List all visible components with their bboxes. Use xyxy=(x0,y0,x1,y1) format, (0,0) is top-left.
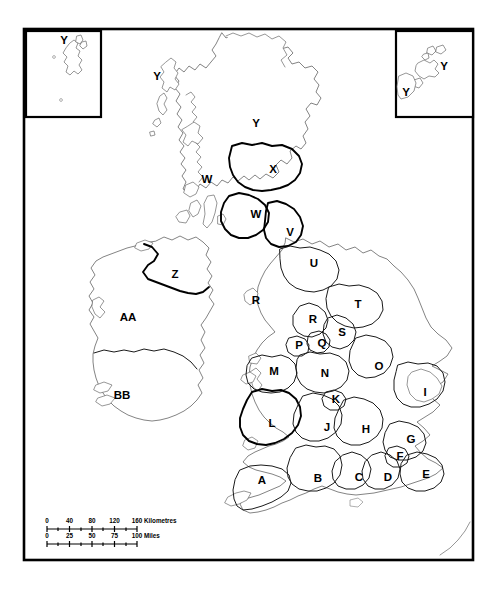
scotland-mainland-coast xyxy=(174,33,321,192)
region-label-k: K xyxy=(332,393,341,405)
kintyre-peninsula xyxy=(203,195,217,228)
outer-hebrides-barra xyxy=(153,118,161,127)
scale-label-km-40: 40 xyxy=(66,517,74,524)
region-label-w-highland: W xyxy=(202,173,213,185)
shetland-foula xyxy=(53,56,56,59)
scale-label-mi-75: 75 xyxy=(111,532,119,539)
region-label-m: M xyxy=(269,365,279,377)
scale-label-km-120: 120 xyxy=(109,517,120,524)
hebrides-small-isle-1 xyxy=(150,131,155,136)
region-label-e: E xyxy=(422,468,430,480)
region-label-o: O xyxy=(375,360,384,372)
region-label-n: N xyxy=(321,367,329,379)
region-label-i: I xyxy=(423,386,426,398)
region-label-c: C xyxy=(355,471,363,483)
region-label-bb: BB xyxy=(114,389,131,401)
scale-label-mi-25: 25 xyxy=(66,532,74,539)
region-label-s: S xyxy=(338,326,346,338)
scale-label-mi-100: 100 xyxy=(132,532,143,539)
orkney-inset-label-main: Y xyxy=(440,60,448,72)
shetland-inset-label: Y xyxy=(60,34,68,46)
region-label-r-isle-of-man: R xyxy=(252,294,261,306)
isle-of-islay xyxy=(176,210,190,223)
region-label-p: P xyxy=(295,339,303,351)
region-label-w-central: W xyxy=(251,208,262,220)
map-scale-bar: 0 40 80 120 160 Kilometres 0 25 50 75 10… xyxy=(45,517,177,547)
region-label-u: U xyxy=(310,257,318,269)
scale-label-km-80: 80 xyxy=(88,517,96,524)
boundary-w-central xyxy=(221,193,269,238)
region-label-r-lancashire: R xyxy=(309,313,318,325)
region-label-t: T xyxy=(354,298,361,310)
region-label-l: L xyxy=(268,417,275,429)
region-label-b: B xyxy=(314,472,322,484)
isle-of-wight xyxy=(350,498,363,507)
scale-unit-kilometres: Kilometres xyxy=(144,517,177,524)
orkney-inset-label-secondary: Y xyxy=(402,86,410,98)
region-label-g: G xyxy=(407,433,416,445)
continent-sliver-coast xyxy=(440,522,470,555)
outer-hebrides-uist xyxy=(157,93,167,115)
region-label-d: D xyxy=(384,471,392,483)
scale-unit-miles: Miles xyxy=(144,532,160,539)
region-label-h: H xyxy=(362,423,370,435)
orkney-inset: Y Y xyxy=(396,31,473,117)
shetland-fair-isle xyxy=(60,99,63,102)
isle-of-jura xyxy=(189,200,201,217)
map-figure: A B C D E F G H I J K L M N O P Q R R S … xyxy=(0,0,498,597)
region-label-z: Z xyxy=(171,268,178,280)
scale-label-km-160: 160 xyxy=(132,517,143,524)
boundary-v-borders xyxy=(264,201,303,247)
region-label-j: J xyxy=(324,421,330,433)
region-label-y-hebrides: Y xyxy=(153,70,161,82)
region-label-x: X xyxy=(269,163,277,175)
region-label-q: Q xyxy=(318,337,327,349)
map-canvas: A B C D E F G H I J K L M N O P Q R R S … xyxy=(0,0,498,597)
shetland-inset: Y xyxy=(26,31,101,117)
region-label-a: A xyxy=(258,474,266,486)
scale-label-mi-50: 50 xyxy=(88,532,96,539)
region-label-f: F xyxy=(396,450,403,462)
outer-hebrides-lewis xyxy=(160,58,179,92)
region-label-aa: AA xyxy=(120,311,137,323)
region-label-y-highland: Y xyxy=(252,117,260,129)
region-label-v: V xyxy=(286,226,294,238)
scale-label-mi-0: 0 xyxy=(45,532,49,539)
scale-label-km-0: 0 xyxy=(45,517,49,524)
